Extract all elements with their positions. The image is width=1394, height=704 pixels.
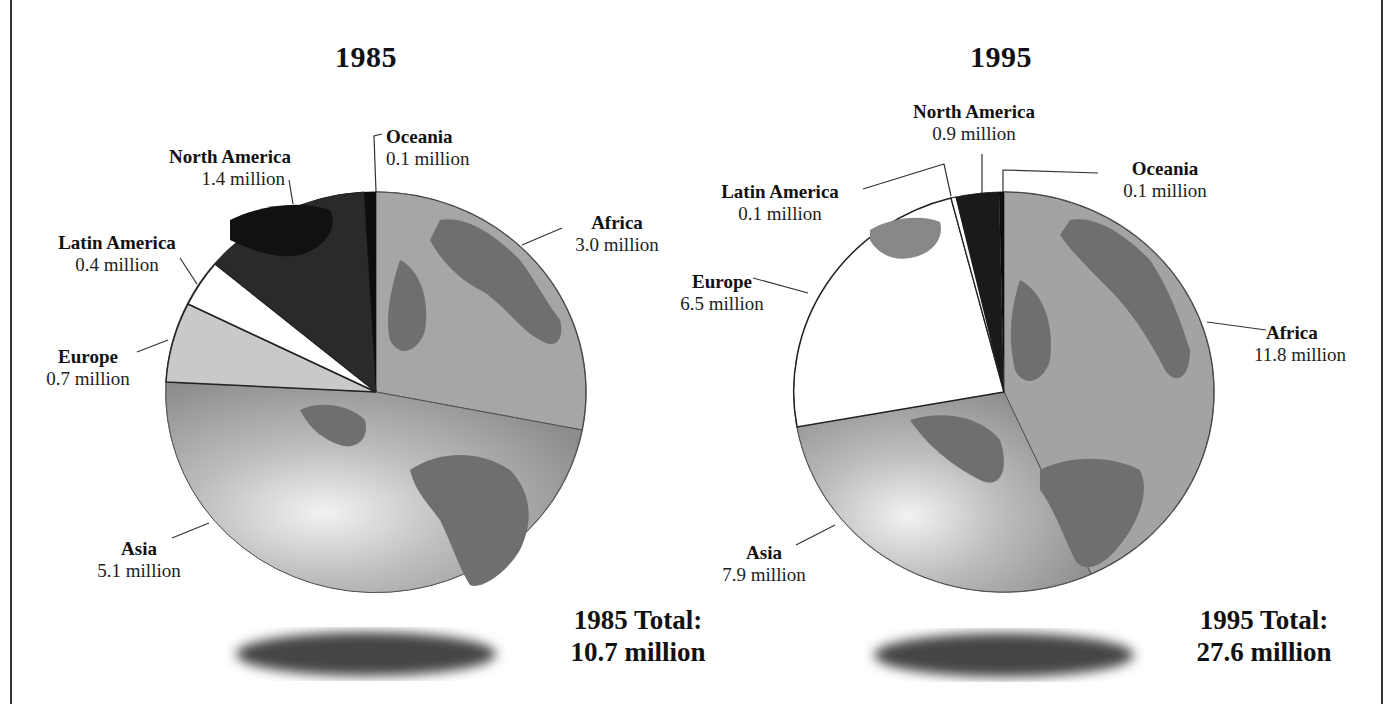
pie-1985-shadow [236, 632, 496, 676]
label-name: Africa [562, 212, 672, 234]
label-name: Europe [668, 271, 776, 293]
label-name: Oceania [386, 126, 469, 148]
label-value: 1.4 million [145, 168, 315, 190]
label-value: 0.1 million [700, 203, 860, 225]
label-1995-europe: Europe 6.5 million [668, 271, 776, 315]
total-1985: 1985 Total: 10.7 million [548, 604, 728, 668]
total-1985-label: 1985 Total: [548, 604, 728, 636]
label-value: 5.1 million [84, 560, 194, 582]
label-value: 0.9 million [884, 123, 1064, 145]
pie-1995 [753, 154, 1266, 677]
pie-1995-shadow [874, 633, 1134, 677]
label-value: 0.1 million [386, 148, 469, 170]
label-value: 0.7 million [34, 368, 142, 390]
total-1985-value: 10.7 million [548, 636, 728, 668]
label-value: 3.0 million [562, 234, 672, 256]
label-1995-asia: Asia 7.9 million [706, 542, 822, 586]
label-name: Africa [1238, 322, 1362, 344]
label-1995-latin-america: Latin America 0.1 million [700, 181, 860, 225]
label-value: 6.5 million [668, 293, 776, 315]
label-1985-europe: Europe 0.7 million [34, 346, 142, 390]
pie-1995-title: 1995 [970, 40, 1032, 74]
label-name: North America [884, 101, 1064, 123]
label-value: 11.8 million [1238, 344, 1362, 366]
label-name: Europe [34, 346, 142, 368]
label-value: 7.9 million [706, 564, 822, 586]
label-1995-oceania: Oceania 0.1 million [1100, 158, 1230, 202]
label-1985-africa: Africa 3.0 million [562, 212, 672, 256]
label-name: Latin America [38, 232, 196, 254]
label-name: Latin America [700, 181, 860, 203]
label-1985-oceania: Oceania 0.1 million [386, 126, 469, 170]
label-1985-latin-america: Latin America 0.4 million [38, 232, 196, 276]
pie-1985 [137, 134, 586, 676]
label-name: Asia [84, 538, 194, 560]
label-name: Oceania [1100, 158, 1230, 180]
label-1985-north-america: North America 1.4 million [145, 146, 315, 190]
label-1985-asia: Asia 5.1 million [84, 538, 194, 582]
label-value: 0.4 million [38, 254, 196, 276]
label-1995-north-america: North America 0.9 million [884, 101, 1064, 145]
label-name: Asia [706, 542, 822, 564]
label-name: North America [145, 146, 315, 168]
total-1995-label: 1995 Total: [1172, 604, 1356, 636]
label-1995-africa: Africa 11.8 million [1238, 322, 1362, 366]
label-value: 0.1 million [1100, 180, 1230, 202]
pie-charts-canvas [0, 0, 1394, 704]
pie-1985-title: 1985 [335, 40, 397, 74]
total-1995-value: 27.6 million [1172, 636, 1356, 668]
total-1995: 1995 Total: 27.6 million [1172, 604, 1356, 668]
